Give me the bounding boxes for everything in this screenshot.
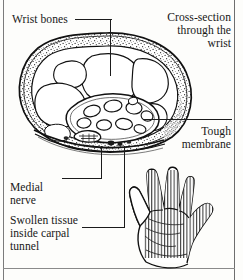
- tendon-oval: [96, 120, 111, 131]
- label-wrist-bones: Wrist bones: [12, 13, 68, 26]
- leader-tough-membrane: [143, 119, 232, 120]
- leader-wrist-bones-horizontal: [75, 19, 112, 20]
- numbness-hatched-area: [144, 170, 216, 258]
- leader-swollen-tissue-horizontal: [82, 227, 125, 228]
- label-tough-membrane: Tough membrane: [147, 125, 231, 151]
- frame-bottom-border: [3, 268, 235, 269]
- hand-palm-illustration: [116, 166, 228, 266]
- leader-medial-nerve-vertical: [101, 146, 102, 179]
- leader-wrist-bones-vertical: [110, 19, 111, 76]
- frame-right-border: [234, 0, 235, 280]
- frame-left-border: [3, 0, 4, 280]
- figure-panel: Wrist bones Cross-section through the wr…: [0, 0, 243, 280]
- label-swollen-tissue: Swollen tissue inside carpal tunnel: [10, 214, 78, 254]
- medial-nerve-structure: [74, 131, 101, 142]
- leader-medial-nerve-horizontal: [62, 178, 102, 179]
- label-medial-nerve: Medial nerve: [10, 181, 43, 207]
- label-cross-section: Cross-section through the wrist: [145, 11, 231, 51]
- clipped-caption-row: [4, 0, 234, 7]
- leader-swollen-tissue-vertical: [124, 146, 125, 228]
